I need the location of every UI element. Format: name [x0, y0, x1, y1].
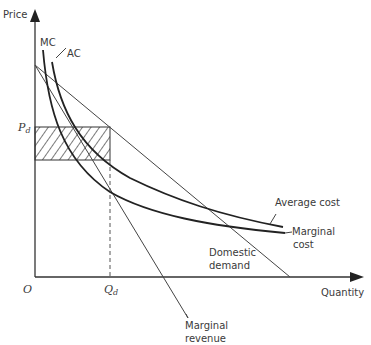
monopoly-diagram: Price Quantity O Pd Qd MC AC Average cos… [0, 0, 371, 345]
pd-label: Pd [17, 121, 31, 135]
marginal-cost-label-2: cost [293, 239, 314, 250]
ac-pointer [56, 48, 66, 58]
domestic-demand-label-1: Domestic [209, 247, 256, 258]
mc-label: MC [40, 37, 56, 48]
y-axis-arrow-icon [30, 9, 40, 22]
x-axis-arrow-icon [350, 272, 364, 282]
average-cost-pointer [270, 214, 276, 224]
domestic-demand-label-2: demand [209, 260, 250, 271]
marginal-revenue-label-2: revenue [185, 333, 226, 344]
y-axis-label: Price [3, 9, 27, 20]
x-axis-label: Quantity [321, 287, 364, 298]
ac-label: AC [67, 48, 81, 59]
marginal-cost-label-1: Marginal [292, 226, 335, 237]
average-cost-label: Average cost [275, 197, 340, 208]
qd-label: Qd [104, 283, 118, 297]
domestic-demand-line [35, 65, 290, 277]
marginal-revenue-label-1: Marginal [185, 320, 228, 331]
origin-label: O [23, 283, 32, 296]
marginal-revenue-line [35, 65, 188, 318]
marginal-cost-pointer [285, 232, 292, 233]
